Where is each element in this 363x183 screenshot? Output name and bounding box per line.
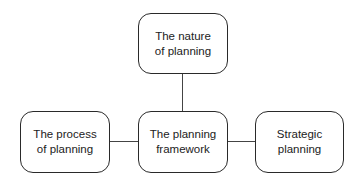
node-planning-framework: The planning framework (138, 111, 228, 173)
connector-center-right (228, 141, 255, 142)
node-nature-of-planning: The nature of planning (138, 13, 228, 74)
node-process-of-planning: The process of planning (20, 111, 110, 173)
node-label-line1: The process (33, 127, 96, 142)
connector-center-top (182, 74, 183, 111)
node-label-line1: The nature (155, 29, 211, 44)
node-label-line1: The planning (150, 127, 217, 142)
node-label-line2: planning (278, 142, 321, 157)
node-strategic-planning: Strategic planning (255, 111, 344, 173)
node-label-line2: framework (156, 142, 210, 157)
connector-center-left (110, 141, 138, 142)
node-label-line2: of planning (37, 142, 93, 157)
node-label-line2: of planning (155, 44, 211, 59)
node-label-line1: Strategic (277, 127, 322, 142)
